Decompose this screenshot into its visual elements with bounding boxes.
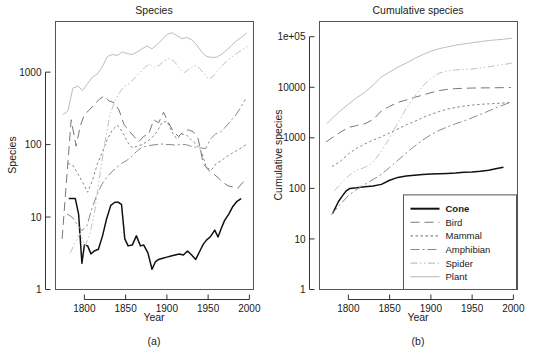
x-tick-label: 1950 <box>197 303 220 314</box>
x-tick-label: 2000 <box>238 303 261 314</box>
series-line-bird <box>326 88 511 142</box>
x-tick-label: 1950 <box>461 303 484 314</box>
y-tick-label: 10 <box>30 212 42 223</box>
y-tick-label: 1 <box>300 284 306 295</box>
panel-a-caption: (a) <box>148 335 161 347</box>
legend-label-amphibian: Amphibian <box>446 244 491 255</box>
series-line-spider <box>334 63 511 191</box>
series-line-plant <box>327 38 512 123</box>
y-tick-label: 1000 <box>19 67 42 78</box>
figure-container: Species 1101001000 18001850190019502000 … <box>0 0 535 353</box>
y-tick-label: 10 <box>294 234 306 245</box>
series-line-mammal <box>68 121 246 192</box>
x-tick-label: 1850 <box>115 303 138 314</box>
x-tick-label: 2000 <box>502 303 525 314</box>
panel-b-y-axis-title: Cumulative species <box>272 109 284 200</box>
x-tick-label: 1850 <box>379 303 402 314</box>
panel-b-x-axis-title: Year <box>407 311 429 323</box>
panel-a-x-axis: 18001850190019502000 <box>73 295 261 314</box>
y-tick-label: 10000 <box>278 82 306 93</box>
y-tick-label: 100 <box>25 139 42 150</box>
y-tick-label: 1000 <box>283 132 306 143</box>
legend-label-cone: Cone <box>446 203 470 214</box>
panel-b-caption: (b) <box>412 335 425 347</box>
y-tick-label: 100 <box>289 183 306 194</box>
panel-a-y-axis: 1101001000 <box>19 67 50 295</box>
y-tick-label: 1e+05 <box>277 31 306 42</box>
legend-label-mammal: Mammal <box>446 230 482 241</box>
series-line-amphibian <box>67 99 245 230</box>
panel-b-title: Cumulative species <box>372 4 463 16</box>
chart-panel-a: Species 1101001000 18001850190019502000 … <box>0 0 268 353</box>
panel-a-title: Species <box>135 4 172 16</box>
chart-panel-b: Cumulative species 1101001000100001e+05 … <box>268 0 535 353</box>
series-line-spider <box>70 46 247 253</box>
legend-label-spider: Spider <box>446 258 473 269</box>
panel-a-y-axis-title: Species <box>6 136 18 173</box>
legend-label-bird: Bird <box>446 217 463 228</box>
y-tick-label: 1 <box>36 284 42 295</box>
x-tick-label: 1800 <box>73 303 96 314</box>
panel-b-x-axis: 18001850190019502000 <box>337 295 525 314</box>
panel-b-series-group <box>326 38 512 215</box>
x-tick-label: 1800 <box>337 303 360 314</box>
series-line-mammal <box>332 102 510 166</box>
panel-a-plot-frame <box>56 22 254 290</box>
series-line-plant <box>63 33 247 115</box>
legend-label-plant: Plant <box>446 271 468 282</box>
panel-a-x-axis-title: Year <box>143 311 165 323</box>
panel-a-series-group <box>62 33 248 270</box>
legend: ConeBirdMammalAmphibianSpiderPlant <box>404 195 517 290</box>
